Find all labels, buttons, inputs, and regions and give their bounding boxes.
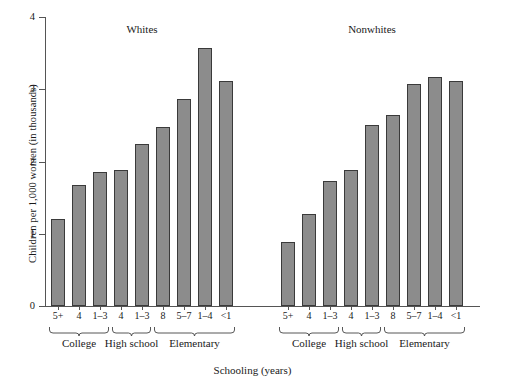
bar: [449, 81, 463, 306]
group-bracket: [342, 327, 381, 336]
bar: [386, 115, 400, 306]
category-label: 8: [161, 310, 166, 321]
bar: [51, 219, 65, 306]
category-label: <1: [221, 310, 232, 321]
category-label: 4: [307, 310, 312, 321]
category-label: <1: [451, 310, 462, 321]
category-label: 4: [77, 310, 82, 321]
y-axis-tick: 0: [39, 306, 46, 307]
category-label: 1–3: [323, 310, 338, 321]
category-label: 1–3: [365, 310, 380, 321]
bar: [344, 170, 358, 306]
bar: [323, 181, 337, 306]
bar: [219, 81, 233, 306]
x-axis-label: Schooling (years): [0, 364, 505, 376]
category-label: 4: [349, 310, 354, 321]
bar: [198, 48, 212, 306]
category-label: 8: [391, 310, 396, 321]
y-axis-tick-label: 4: [30, 10, 35, 23]
category-label: 5+: [53, 310, 64, 321]
bar: [365, 125, 379, 306]
y-axis-tick: 4: [39, 17, 46, 18]
group-bracket: [49, 327, 109, 336]
category-label: 5–7: [407, 310, 422, 321]
group-bracket: [154, 327, 235, 336]
y-axis-tick: 1: [39, 234, 46, 235]
group-bracket-label: College: [62, 337, 96, 349]
bar: [281, 242, 295, 306]
y-axis-tick-label: 3: [30, 82, 35, 95]
bar: [114, 170, 128, 306]
bar: [407, 84, 421, 306]
bar: [428, 77, 442, 306]
group-bracket-label: College: [292, 337, 326, 349]
bar: [93, 172, 107, 306]
group-bracket-label: High school: [105, 337, 158, 349]
bar: [177, 99, 191, 306]
group-bracket: [279, 327, 339, 336]
group-bracket: [112, 327, 151, 336]
y-axis-tick-label: 1: [30, 227, 35, 240]
category-label: 5–7: [177, 310, 192, 321]
bar: [135, 144, 149, 306]
bar: [72, 185, 86, 306]
group-bracket: [384, 327, 465, 336]
plot-area: 01234 5+41–341–385–71–4<15+41–341–385–71…: [45, 17, 490, 306]
y-axis-tick-label: 2: [30, 155, 35, 168]
category-label: 5+: [283, 310, 294, 321]
bar: [156, 127, 170, 306]
category-label: 1–4: [198, 310, 213, 321]
group-bracket-label: Elementary: [169, 337, 220, 349]
category-label: 1–3: [93, 310, 108, 321]
category-label: 1–4: [428, 310, 443, 321]
category-label: 4: [119, 310, 124, 321]
bar: [302, 214, 316, 306]
chart-figure: Children per 1,000 women (in thousands) …: [0, 0, 505, 384]
group-bracket-label: Elementary: [399, 337, 450, 349]
y-axis-tick-label: 0: [30, 299, 35, 312]
y-axis-tick: 3: [39, 89, 46, 90]
panel-title: Whites: [126, 23, 157, 35]
category-label: 1–3: [135, 310, 150, 321]
panel-title: Nonwhites: [348, 23, 396, 35]
group-bracket-label: High school: [335, 337, 388, 349]
y-axis-tick: 2: [39, 162, 46, 163]
